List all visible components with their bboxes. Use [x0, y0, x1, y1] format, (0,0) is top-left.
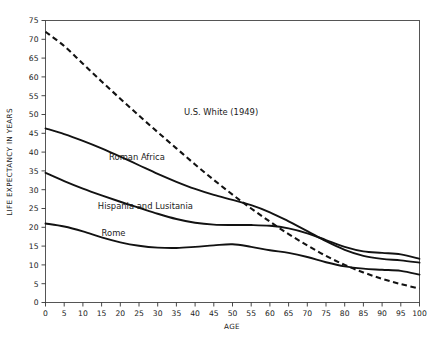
- x-tick-label: 5: [62, 309, 67, 318]
- series-label-roman-africa: Roman Africa: [109, 152, 165, 162]
- y-tick-label: 60: [29, 73, 39, 82]
- y-tick-label: 15: [29, 242, 39, 251]
- y-tick-label: 55: [29, 92, 39, 101]
- series-label-rome: Rome: [102, 228, 126, 238]
- y-tick-label: 65: [29, 54, 39, 63]
- x-tick-label: 85: [359, 309, 369, 318]
- x-tick-label: 65: [284, 309, 294, 318]
- x-tick-label: 40: [190, 309, 200, 318]
- y-tick-label: 5: [34, 280, 39, 289]
- x-tick-label: 20: [115, 309, 125, 318]
- x-tick-label: 15: [97, 309, 107, 318]
- x-tick-label: 10: [78, 309, 88, 318]
- y-tick-label: 10: [29, 261, 39, 270]
- x-tick-label: 50: [228, 309, 238, 318]
- x-tick-label: 0: [43, 309, 48, 318]
- y-tick-label: 40: [29, 148, 39, 157]
- y-tick-label: 20: [29, 223, 39, 232]
- x-tick-label: 80: [340, 309, 350, 318]
- x-tick-label: 70: [302, 309, 312, 318]
- life-expectancy-line-chart: 051015202530354045505560657075 051015202…: [0, 0, 432, 339]
- y-tick-label: 30: [29, 186, 39, 195]
- x-tick-label: 30: [153, 309, 163, 318]
- x-axis-ticks: [46, 303, 420, 307]
- series-label-u-s-white-1949: U.S. White (1949): [184, 107, 258, 117]
- x-axis-title: AGE: [224, 322, 240, 331]
- chart-background: [0, 0, 432, 339]
- y-tick-label: 70: [29, 35, 39, 44]
- y-axis-title: LIFE EXPECTANCY IN YEARS: [5, 108, 14, 216]
- x-tick-label: 25: [134, 309, 144, 318]
- x-tick-label: 100: [412, 309, 427, 318]
- y-tick-label: 75: [29, 16, 39, 25]
- x-tick-label: 45: [209, 309, 219, 318]
- x-tick-label: 95: [396, 309, 406, 318]
- y-tick-label: 25: [29, 204, 39, 213]
- x-tick-label: 90: [377, 309, 387, 318]
- y-tick-label: 45: [29, 129, 39, 138]
- y-tick-label: 35: [29, 167, 39, 176]
- y-tick-label: 50: [29, 110, 39, 119]
- y-tick-label: 0: [34, 298, 39, 307]
- series-label-hispania-and-lusitania: Hispania and Lusitania: [98, 201, 193, 211]
- x-tick-label: 35: [172, 309, 182, 318]
- x-tick-label: 60: [265, 309, 275, 318]
- x-tick-label: 55: [246, 309, 256, 318]
- x-tick-label: 75: [321, 309, 331, 318]
